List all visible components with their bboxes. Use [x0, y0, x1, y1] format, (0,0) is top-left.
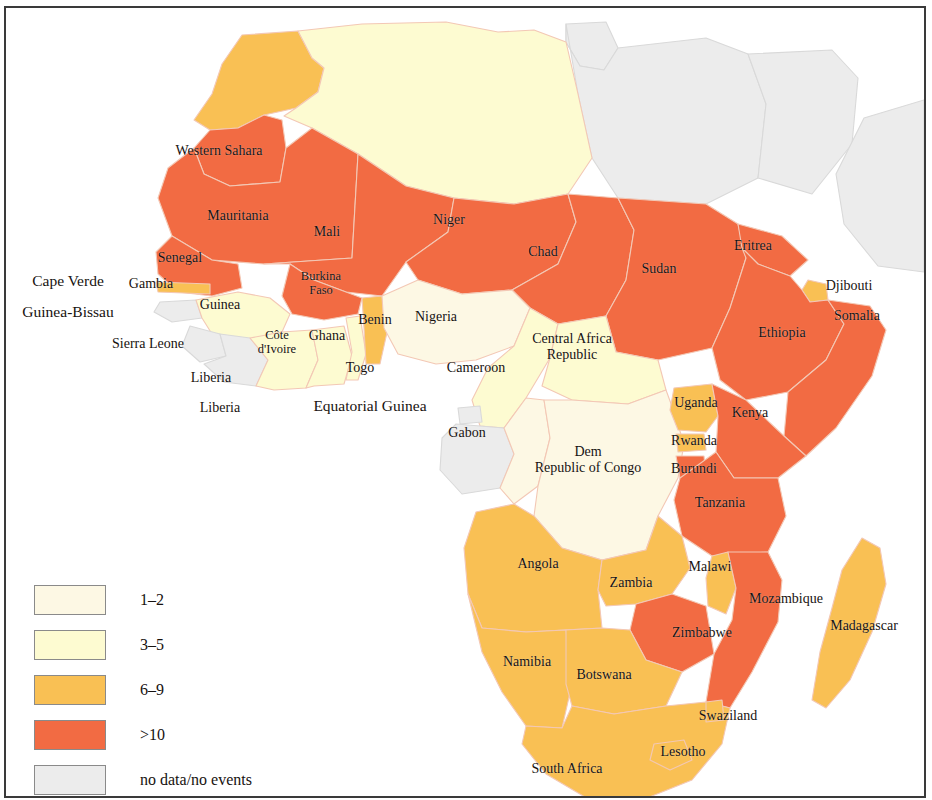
legend-label-1-2: 1–2: [140, 591, 164, 609]
legend-swatch-gt10: [34, 720, 106, 750]
legend-swatch-1-2: [34, 585, 106, 615]
country-uganda[interactable]: [670, 384, 718, 432]
legend-label-nodata: no data/no events: [140, 771, 252, 789]
legend-swatch-3-5: [34, 630, 106, 660]
country-shapes-group: [154, 22, 924, 796]
legend-row-nodata[interactable]: no data/no events: [34, 761, 252, 798]
legend-label-gt10: >10: [140, 726, 165, 744]
legend-label-3-5: 3–5: [140, 636, 164, 654]
country-guinea-bissau[interactable]: [154, 300, 202, 322]
legend-swatch-6-9: [34, 675, 106, 705]
map-figure-frame: Western SaharaMauritaniaMaliNigerChadSud…: [4, 6, 926, 798]
legend-swatch-nodata: [34, 765, 106, 795]
country-gambia[interactable]: [156, 282, 210, 294]
legend-row-1-2[interactable]: 1–2: [34, 581, 252, 618]
country-madagascar[interactable]: [812, 538, 886, 708]
map-legend: 1–23–56–9>10no data/no events: [34, 581, 252, 798]
country-swaziland[interactable]: [706, 700, 724, 722]
legend-row-gt10[interactable]: >10: [34, 716, 252, 753]
legend-label-6-9: 6–9: [140, 681, 164, 699]
legend-row-3-5[interactable]: 3–5: [34, 626, 252, 663]
country-equatorial-guinea[interactable]: [458, 406, 482, 424]
legend-row-6-9[interactable]: 6–9: [34, 671, 252, 708]
country-rwanda[interactable]: [676, 434, 706, 452]
